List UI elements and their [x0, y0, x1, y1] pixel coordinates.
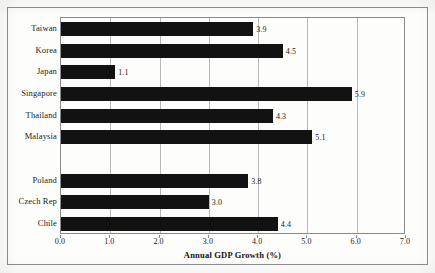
bar-group: 5.1: [61, 130, 406, 144]
x-tick-label: 7.0: [400, 237, 410, 246]
bar[interactable]: [61, 195, 209, 209]
x-tick-label: 3.0: [203, 237, 213, 246]
category-label: Taiwan: [1, 23, 57, 33]
bar-value-label: 1.1: [118, 68, 128, 77]
category-label: Czech Rep: [1, 196, 57, 206]
bar-value-label: 3.0: [212, 198, 222, 207]
bar-value-label: 4.5: [286, 46, 296, 55]
bar[interactable]: [61, 130, 312, 144]
category-axis: TaiwanKoreaJapanSingaporeThailandMalaysi…: [0, 17, 57, 234]
category-label: Thailand: [1, 110, 57, 120]
bar-group: 3.9: [61, 22, 406, 36]
bar[interactable]: [61, 174, 248, 188]
bar[interactable]: [61, 87, 352, 101]
bar[interactable]: [61, 44, 283, 58]
bar-group: 4.4: [61, 217, 406, 231]
bar-value-label: 4.3: [276, 111, 286, 120]
category-label: Malaysia: [1, 131, 57, 141]
x-tick-label: 2.0: [153, 237, 163, 246]
bar-group: 3.0: [61, 195, 406, 209]
bar-group: 3.8: [61, 174, 406, 188]
plot-area: 3.94.51.15.94.35.13.83.04.4: [60, 17, 405, 234]
x-tick-label: 6.0: [351, 237, 361, 246]
category-label: Poland: [1, 175, 57, 185]
bar-value-label: 3.9: [256, 24, 266, 33]
bar-value-label: 3.8: [251, 176, 261, 185]
figure-page: TaiwanKoreaJapanSingaporeThailandMalaysi…: [0, 0, 435, 273]
bar-value-label: 4.4: [281, 220, 291, 229]
category-label: Japan: [1, 66, 57, 76]
bar-chart: TaiwanKoreaJapanSingaporeThailandMalaysi…: [0, 0, 435, 273]
bar[interactable]: [61, 109, 273, 123]
category-label: Korea: [1, 45, 57, 55]
bar-group: 4.5: [61, 44, 406, 58]
bar-value-label: 5.1: [315, 133, 325, 142]
bar-group: 1.1: [61, 65, 406, 79]
bar[interactable]: [61, 217, 278, 231]
bar-group: 5.9: [61, 87, 406, 101]
bar-value-label: 5.9: [355, 89, 365, 98]
category-label: Singapore: [1, 88, 57, 98]
bar-group: 4.3: [61, 109, 406, 123]
x-tick-label: 4.0: [252, 237, 262, 246]
x-axis-title: Annual GDP Growth (%): [60, 250, 405, 260]
bar[interactable]: [61, 22, 253, 36]
x-axis: 0.01.02.03.04.05.06.07.0: [60, 235, 405, 249]
x-tick-label: 1.0: [104, 237, 114, 246]
x-tick-label: 0.0: [55, 237, 65, 246]
category-label: Chile: [1, 218, 57, 228]
bar[interactable]: [61, 65, 115, 79]
x-tick-label: 5.0: [301, 237, 311, 246]
